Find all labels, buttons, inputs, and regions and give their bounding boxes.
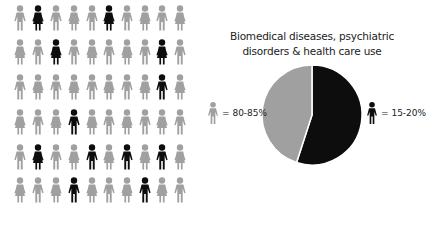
legend-majority-label: = 80-85% <box>222 108 267 118</box>
gray-person-icon <box>206 101 220 125</box>
black-person-icon <box>365 101 379 125</box>
legend-minority-label: = 15-20% <box>381 108 426 118</box>
legend-majority: = 80-85% <box>206 101 267 125</box>
legend-minority: = 15-20% <box>365 101 426 125</box>
